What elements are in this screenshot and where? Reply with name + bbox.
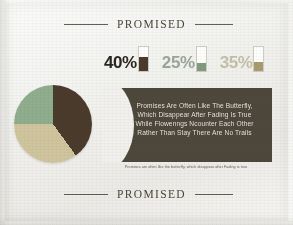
quote-line-1: Promises Are Often Like The Butterfly, [124, 101, 265, 110]
bar-glyph-25-icon [196, 46, 207, 72]
bar-glyph-35-icon [253, 46, 264, 72]
caption-text: Promises are often like the butterfly, w… [100, 165, 272, 170]
footer-title-row: PROMISED [26, 188, 271, 200]
bar-fill-35 [254, 62, 263, 71]
bar-fill-40 [139, 57, 148, 71]
stat-value-35: 35% [220, 54, 253, 71]
header-title-row: PROMISED [26, 18, 271, 30]
page-title: PROMISED [117, 18, 186, 30]
pie-chart-graphic [14, 85, 92, 163]
quote-line-2: Which Disappear After Fading Is True [124, 110, 265, 119]
stat-value-25: 25% [162, 54, 195, 71]
quote-line-4: Rather Than Stay There Are No Trails [124, 128, 265, 137]
stat-item: 35% [220, 46, 265, 72]
stat-value-40: 40% [104, 54, 137, 71]
quote-line-3: While Flowenngs Ncounter Each Other [124, 119, 265, 128]
footer-rule-left [64, 194, 108, 195]
footer-title: PROMISED [117, 188, 186, 200]
header-rule-right [195, 24, 233, 25]
quote-callout: Promises Are Often Like The Butterfly, W… [102, 88, 272, 162]
header-rule-left [64, 24, 108, 25]
stat-item: 40% [104, 46, 149, 72]
quote-text: Promises Are Often Like The Butterfly, W… [124, 101, 265, 137]
stat-item: 25% [162, 46, 207, 72]
infographic-poster: PROMISED 40% 25% 35% Promis [0, 0, 293, 225]
footer-rule-right [195, 194, 233, 195]
bar-glyph-40-icon [138, 46, 149, 72]
stats-row: 40% 25% 35% [104, 46, 264, 72]
bar-fill-25 [197, 63, 206, 71]
pie-chart [14, 85, 92, 163]
